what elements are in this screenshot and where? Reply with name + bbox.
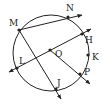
point-n: [66, 15, 69, 18]
point-l: [15, 66, 18, 69]
label-m: M: [9, 18, 18, 28]
point-p: [78, 72, 81, 75]
label-l: L: [19, 56, 25, 66]
point-k: [86, 53, 89, 56]
label-k: K: [92, 52, 99, 62]
circle: [13, 15, 89, 91]
labels-layer: MNHKPJLO: [9, 3, 99, 88]
point-h: [80, 32, 83, 35]
label-n: N: [66, 3, 74, 13]
circle-diagram: MNHKPJLO: [0, 0, 102, 110]
label-h: H: [85, 35, 93, 45]
label-j: J: [56, 78, 61, 88]
label-p: P: [84, 67, 90, 77]
point-m: [17, 28, 20, 31]
point-o: [48, 48, 51, 51]
label-o: O: [55, 49, 62, 59]
